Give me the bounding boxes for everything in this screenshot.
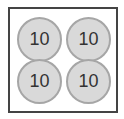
coin-bottom-right: 10 (66, 59, 111, 104)
coin-value: 10 (78, 29, 98, 50)
coin-value: 10 (78, 71, 98, 92)
coin-value: 10 (29, 29, 49, 50)
coin-top-right: 10 (66, 17, 111, 62)
coin-top-left: 10 (17, 17, 62, 62)
coin-bottom-left: 10 (17, 59, 62, 104)
coin-value: 10 (29, 71, 49, 92)
